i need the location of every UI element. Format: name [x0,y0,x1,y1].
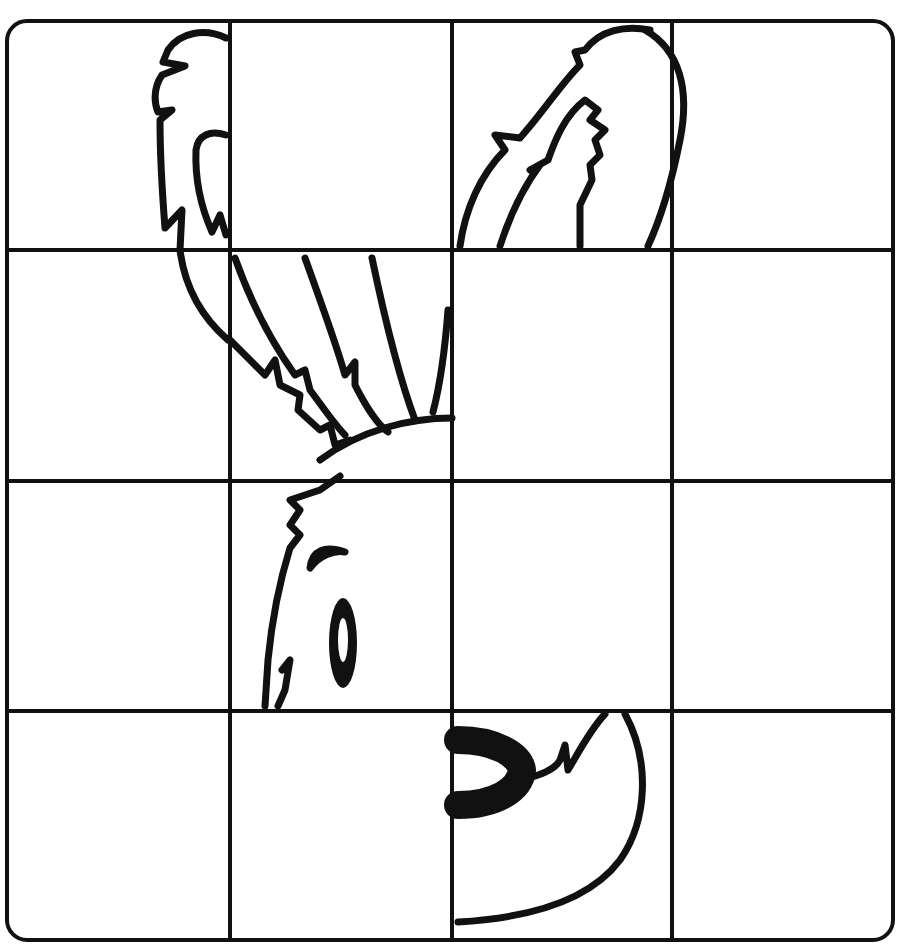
drawing-canvas [0,0,897,945]
muzzle-drawing [458,714,642,922]
right-ear-drawing [460,28,684,246]
eye-highlight [338,618,348,662]
left-ear-drawing [155,33,452,460]
